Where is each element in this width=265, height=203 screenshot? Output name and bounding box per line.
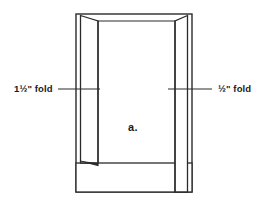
bag-fold-diagram: 1½" fold ½" fold a. <box>0 0 265 203</box>
right-fold-gusset <box>175 16 188 193</box>
bag-illustration <box>0 0 265 203</box>
right-fold-label: ½" fold <box>218 84 251 94</box>
left-fold-label: 1½" fold <box>14 84 53 94</box>
figure-caption: a. <box>128 122 138 133</box>
